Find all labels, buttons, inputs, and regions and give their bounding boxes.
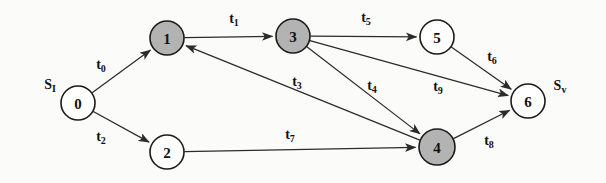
- node-label: 6: [524, 94, 532, 110]
- edge-label-subscript: 8: [489, 139, 494, 150]
- terminal-label-sink: Sv: [554, 78, 567, 95]
- node-label: 5: [433, 30, 441, 46]
- graph-node-5: 5: [420, 20, 454, 54]
- terminal-label-source: SI: [44, 77, 56, 94]
- node-label: 4: [433, 140, 441, 156]
- edge-label-text: t5: [361, 10, 371, 27]
- edge-label-text: t8: [484, 133, 494, 150]
- edge-label-subscript: 4: [372, 84, 377, 95]
- edge-label-text: t6: [487, 49, 497, 66]
- edge-label-subscript: 3: [297, 80, 302, 91]
- edge-label-subscript: 7: [290, 133, 295, 144]
- edge-label-text: t1: [229, 11, 239, 28]
- edge-label-subscript: 1: [234, 17, 239, 28]
- node-label: 3: [289, 29, 297, 45]
- terminal-label-base: S: [554, 78, 562, 93]
- edge-label-subscript: 5: [366, 16, 371, 27]
- edge-label-t7: t7: [285, 127, 295, 144]
- graph-figure: 0123456 t0t1t2t3t4t5t6t7t8t9 SISv: [0, 0, 606, 183]
- graph-node-2: 2: [150, 135, 184, 169]
- graph-node-4: 4: [419, 129, 455, 165]
- edge-label-subscript: 2: [101, 135, 106, 146]
- edge-label-t4: t4: [367, 78, 377, 95]
- graph-node-6: 6: [511, 84, 545, 118]
- edge-label-t0: t0: [96, 57, 106, 74]
- graph-node-0: 0: [61, 86, 95, 120]
- terminal-label-subscript: I: [52, 83, 56, 94]
- node-label: 2: [163, 145, 171, 161]
- edge-label-text: t2: [96, 129, 106, 146]
- node-label: 0: [74, 96, 82, 112]
- edge-label-t1: t1: [229, 11, 239, 28]
- graph-edge: [307, 47, 420, 134]
- node-label: 1: [163, 31, 171, 47]
- terminal-label-layer: SISv: [44, 77, 566, 95]
- graph-edge: [454, 110, 510, 138]
- edge-label-subscript: 9: [438, 85, 443, 96]
- graph-canvas: 0123456 t0t1t2t3t4t5t6t7t8t9 SISv: [0, 0, 606, 183]
- edge-label-t6: t6: [487, 49, 497, 66]
- edge-label-text: t7: [285, 127, 295, 144]
- edge-label-t8: t8: [484, 133, 494, 150]
- edge-label-t3: t3: [292, 74, 302, 91]
- graph-edge: [186, 46, 420, 140]
- edge-label-t9: t9: [433, 79, 443, 96]
- edge-label-text: t0: [96, 57, 106, 74]
- terminal-label-text: Sv: [554, 78, 567, 95]
- graph-node-1: 1: [150, 21, 184, 55]
- edge-label-t5: t5: [361, 10, 371, 27]
- graph-edge: [184, 147, 415, 151]
- terminal-label-text: SI: [44, 77, 56, 94]
- node-layer: 0123456: [61, 19, 545, 169]
- edge-label-text: t3: [292, 74, 302, 91]
- edge-label-subscript: 6: [492, 55, 497, 66]
- graph-edge: [310, 36, 416, 37]
- graph-node-3: 3: [276, 19, 310, 53]
- edge-label-text: t4: [367, 78, 377, 95]
- edge-label-text: t9: [433, 79, 443, 96]
- terminal-label-base: S: [44, 77, 52, 92]
- terminal-label-subscript: v: [561, 84, 566, 95]
- edge-label-subscript: 0: [101, 63, 106, 74]
- edge-label-t2: t2: [96, 129, 106, 146]
- graph-edge: [184, 36, 272, 37]
- graph-edge: [310, 41, 508, 96]
